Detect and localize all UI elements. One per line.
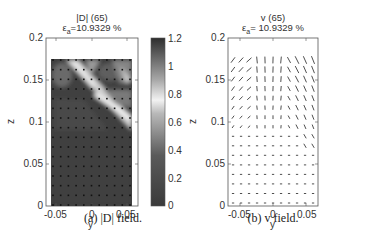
panel-b-plot bbox=[0, 0, 366, 230]
ytick-label: 0.15 bbox=[206, 75, 225, 85]
ytick-label: 0 bbox=[219, 201, 225, 211]
ytick-label: 0.2 bbox=[211, 33, 225, 43]
y-axis-label: z bbox=[187, 119, 198, 124]
ytick-label: 0.05 bbox=[206, 159, 225, 169]
ytick-label: 0.1 bbox=[211, 117, 225, 127]
caption-b: (b) v field. bbox=[218, 211, 328, 226]
